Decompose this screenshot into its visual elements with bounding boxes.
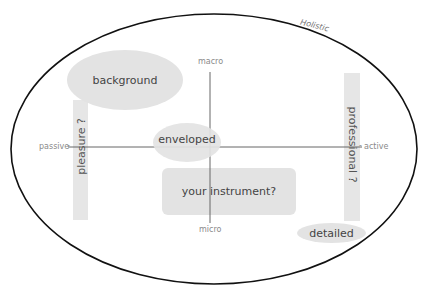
axis-tick-right: - xyxy=(359,141,362,150)
enveloped-node: enveloped xyxy=(153,123,221,162)
instrument-label: your instrument? xyxy=(182,185,276,198)
axis-label-macro: macro xyxy=(198,57,223,66)
enveloped-label: enveloped xyxy=(158,133,216,146)
axis-label-micro: micro xyxy=(199,225,221,234)
pleasure-label: pleasure ? xyxy=(75,112,88,182)
professional-label: professional ? xyxy=(346,100,359,190)
axis-label-passive: passive xyxy=(39,142,69,151)
axis-label-active: active xyxy=(364,142,388,151)
axis-tick-left: - xyxy=(67,141,70,150)
